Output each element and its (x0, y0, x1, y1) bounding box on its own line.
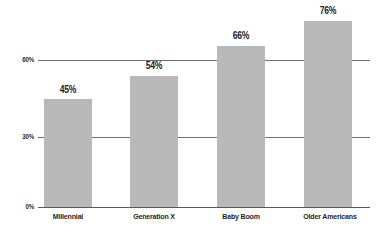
ytick-label-60: 60% (6, 56, 34, 63)
ytick-label-30: 30% (6, 133, 34, 140)
bar-chart: 60% 30% 0% 45% Millennial 54% Generation… (0, 0, 380, 234)
bar-value-millennial: 45% (47, 85, 88, 95)
axis-baseline (38, 207, 370, 208)
category-label-baby-boom: Baby Boom (202, 213, 279, 221)
bar-generation-x (130, 76, 178, 207)
plot-area: 60% 30% 0% 45% Millennial 54% Generation… (0, 0, 380, 234)
category-label-generation-x: Generation X (115, 213, 192, 221)
bar-millennial (44, 99, 92, 207)
bar-value-older-americans: 76% (307, 6, 348, 16)
bar-value-baby-boom: 66% (220, 31, 261, 41)
bar-baby-boom (217, 46, 265, 207)
category-label-millennial: Millennial (29, 213, 106, 221)
category-label-older-americans: Older Americans (290, 213, 371, 221)
ytick-label-0: 0% (6, 203, 34, 210)
bar-older-americans (304, 21, 352, 207)
bar-value-generation-x: 54% (133, 61, 174, 71)
